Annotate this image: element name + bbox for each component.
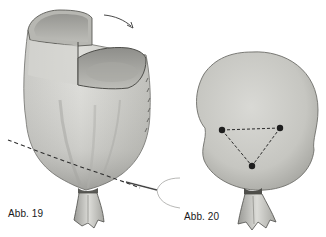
figure-20-label: Abb. 20 — [184, 211, 219, 222]
rotation-arrow-icon — [104, 15, 133, 28]
stitch-point-bottom — [249, 163, 255, 169]
round-head — [197, 52, 318, 190]
figure-20 — [197, 52, 318, 230]
stitch-point-right — [277, 125, 283, 131]
figure-19-label: Abb. 19 — [8, 208, 43, 219]
thread — [157, 178, 180, 208]
needle — [126, 182, 157, 190]
illustration-canvas — [0, 0, 326, 237]
fabric-tuft — [238, 194, 276, 230]
stitch-point-left — [219, 127, 225, 133]
figure-19 — [8, 10, 180, 228]
fabric-tuft — [74, 193, 104, 228]
